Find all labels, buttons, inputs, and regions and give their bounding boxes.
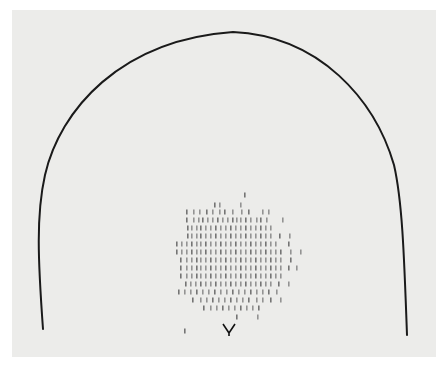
stimulus-tick — [275, 274, 277, 279]
stimulus-tick — [215, 234, 217, 239]
stimulus-tick — [186, 266, 188, 271]
stimulus-tick — [230, 226, 232, 231]
stimulus-tick — [200, 226, 202, 231]
stimulus-tick — [260, 266, 262, 271]
stimulus-tick — [282, 218, 284, 223]
stimulus-tick — [235, 274, 237, 279]
stimulus-tick — [196, 290, 198, 295]
stimulus-tick — [230, 274, 232, 279]
stimulus-tick — [245, 282, 247, 287]
stimulus-tick — [235, 226, 237, 231]
stimulus-tick — [235, 250, 237, 255]
stimulus-tick — [256, 218, 258, 223]
stimulus-tick — [220, 290, 222, 295]
stimulus-tick — [186, 242, 188, 247]
stimulus-tick — [190, 282, 192, 287]
stimulus-tick — [220, 266, 222, 271]
stimulus-tick — [178, 290, 180, 295]
stimulus-tick — [255, 274, 257, 279]
stimulus-tick — [205, 282, 207, 287]
stimulus-tick — [206, 298, 208, 303]
stimulus-tick — [195, 282, 197, 287]
stimulus-tick — [260, 218, 262, 223]
stimulus-tick — [232, 218, 234, 223]
stimulus-tick — [191, 242, 193, 247]
stimulus-tick — [245, 258, 247, 263]
stimulus-tick — [228, 306, 230, 311]
stimulus-tick — [196, 250, 198, 255]
stimulus-tick — [184, 329, 186, 334]
stimulus-tick — [250, 274, 252, 279]
stimulus-tick — [210, 274, 212, 279]
stimulus-tick — [200, 250, 202, 255]
stimulus-tick — [245, 250, 247, 255]
stimulus-tick — [210, 234, 212, 239]
stimulus-tick — [288, 242, 290, 247]
stimulus-tick — [245, 234, 247, 239]
stimulus-tick — [265, 274, 267, 279]
stimulus-tick — [235, 266, 237, 271]
stimulus-tick — [196, 226, 198, 231]
stimulus-tick — [232, 290, 234, 295]
stimulus-tick — [199, 210, 201, 215]
stimulus-tick — [210, 266, 212, 271]
fixation-y-marker — [223, 324, 235, 336]
stimulus-tick — [202, 218, 204, 223]
stimulus-tick — [225, 274, 227, 279]
stimulus-tick — [236, 298, 238, 303]
stimulus-tick — [250, 258, 252, 263]
stimulus-tick — [255, 250, 257, 255]
stimulus-tick — [225, 234, 227, 239]
stimulus-tick — [210, 306, 212, 311]
stimulus-tick — [248, 210, 250, 215]
stimulus-tick — [200, 274, 202, 279]
stimulus-tick — [250, 266, 252, 271]
stimulus-tick — [240, 266, 242, 271]
stimulus-tick — [215, 250, 217, 255]
stimulus-tick — [260, 226, 262, 231]
stimulus-tick — [300, 250, 302, 255]
stimulus-tick — [185, 282, 187, 287]
stimulus-tick — [256, 298, 258, 303]
stimulus-tick — [205, 258, 207, 263]
stimulus-tick — [235, 282, 237, 287]
stimulus-tick — [215, 282, 217, 287]
stimulus-tick — [226, 290, 228, 295]
stimulus-tick — [255, 266, 257, 271]
stimulus-tick — [255, 226, 257, 231]
stimulus-tick — [196, 266, 198, 271]
stimulus-tick — [236, 218, 238, 223]
stimulus-tick — [250, 234, 252, 239]
stimulus-tick — [260, 242, 262, 247]
stimulus-tick — [265, 226, 267, 231]
stimulus-tick — [196, 234, 198, 239]
stimulus-tick — [207, 218, 209, 223]
stimulus-tick — [222, 306, 224, 311]
stimulus-tick — [260, 250, 262, 255]
stimulus-tick — [265, 282, 267, 287]
stimulus-tick — [210, 242, 212, 247]
stimulus-tick — [250, 242, 252, 247]
stimulus-tick — [276, 290, 278, 295]
stimulus-tick — [218, 298, 220, 303]
stimulus-tick — [200, 298, 202, 303]
stimulus-tick — [248, 298, 250, 303]
stimulus-tick — [217, 218, 219, 223]
stimulus-tick — [192, 298, 194, 303]
stimulus-tick — [265, 234, 267, 239]
stimulus-tick — [225, 258, 227, 263]
stimulus-tick — [224, 210, 226, 215]
stimulus-tick — [205, 226, 207, 231]
stimulus-tick — [225, 226, 227, 231]
stimulus-tick — [191, 234, 193, 239]
stimulus-tick — [245, 242, 247, 247]
y-marker-icon — [223, 324, 235, 336]
stimulus-tick — [230, 234, 232, 239]
stimulus-tick — [210, 226, 212, 231]
stimulus-tick — [244, 290, 246, 295]
stimulus-tick — [205, 274, 207, 279]
stimulus-tick — [220, 282, 222, 287]
stimulus-tick — [216, 306, 218, 311]
stimulus-tick — [210, 282, 212, 287]
stimulus-tick — [176, 242, 178, 247]
